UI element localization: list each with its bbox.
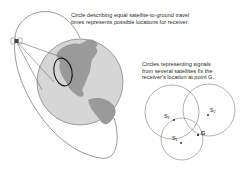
satellite-icon <box>11 38 22 44</box>
signal-circle-s3 <box>145 85 199 139</box>
label-s2: S2 <box>210 107 216 114</box>
signals-caption-line3: receiver's location at point G. <box>142 74 214 81</box>
label-s3: S3 <box>164 113 170 120</box>
signals-caption-line2: from several satellites fix the <box>142 68 214 75</box>
label-g: G <box>201 130 205 136</box>
orbit-caption-line2: times represents possible locations for … <box>71 19 189 26</box>
label-s2-sub: 2 <box>214 110 216 114</box>
signal-line-far <box>16 41 42 90</box>
diagram-canvas <box>0 0 243 170</box>
signal-circle-s1 <box>161 118 203 160</box>
orbit-caption-line1: Circle describing equal satellite-to-gro… <box>71 12 189 19</box>
point-s1 <box>180 142 182 144</box>
label-s1: S1 <box>172 135 178 142</box>
point-g <box>197 134 199 136</box>
signals-caption-line1: Circles representing signals <box>142 61 214 68</box>
point-s2 <box>207 114 209 116</box>
label-s1-sub: 1 <box>176 138 178 142</box>
signal-circle-s2 <box>183 84 235 136</box>
orbit-caption: Circle describing equal satellite-to-gro… <box>71 12 189 25</box>
signals-caption: Circles representing signals from severa… <box>142 61 214 81</box>
label-s3-sub: 3 <box>168 116 170 120</box>
point-s3 <box>173 119 175 121</box>
